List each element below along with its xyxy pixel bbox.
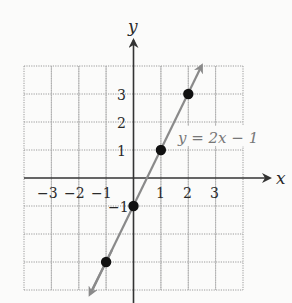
- x-tick-label: −3: [37, 185, 58, 201]
- y-tick-label: 3: [117, 87, 126, 103]
- x-tick-label: 3: [210, 185, 219, 201]
- y-tick-label: −1: [108, 199, 129, 215]
- y-tick-label: 1: [117, 143, 126, 159]
- function-line-tail: [90, 250, 112, 294]
- x-tick-label: 2: [183, 185, 192, 201]
- x-axis-label: x: [276, 168, 286, 188]
- data-point: [128, 201, 138, 211]
- data-point: [156, 145, 166, 155]
- data-point: [101, 257, 111, 267]
- x-tick-label: 1: [156, 185, 165, 201]
- y-axis-label: y: [127, 16, 138, 36]
- data-point: [183, 89, 193, 99]
- x-tick-label: −2: [64, 185, 85, 201]
- y-tick-label: 2: [117, 115, 126, 131]
- coordinate-plane: x y −3 −2 −1 1 2 3 3 2 1 −1 y = 2x − 1: [0, 0, 292, 303]
- equation-label: y = 2x − 1: [177, 129, 258, 147]
